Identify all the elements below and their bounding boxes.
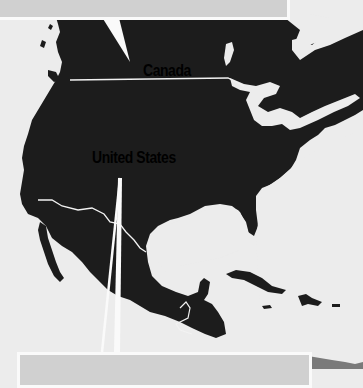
united-states-callout-box (17, 352, 312, 388)
coastal-islands (40, 24, 60, 82)
canada-callout-box (0, 0, 290, 20)
united-states-label: United States (92, 148, 176, 168)
puerto-rico (332, 304, 340, 307)
canada-label: Canada (143, 61, 191, 81)
